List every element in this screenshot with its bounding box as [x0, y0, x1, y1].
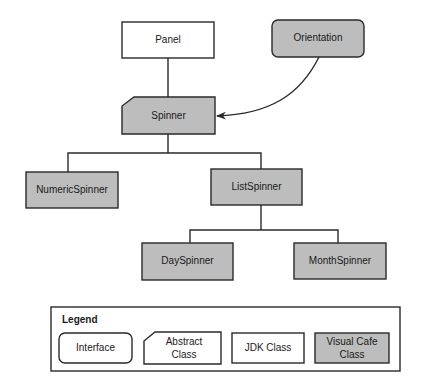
legend-label-line1: Abstract [166, 336, 203, 347]
edges [68, 57, 338, 243]
legend-label: Interface [76, 342, 115, 353]
node-label: Spinner [151, 110, 186, 121]
edge-listspinner-dayspinner [190, 230, 261, 243]
node-listspinner: ListSpinner [211, 169, 302, 205]
legend-label-line2: Class [339, 349, 364, 360]
edge-orientation-spinner-arrow [217, 57, 319, 116]
legend: Legend Interface Abstract Class JDK Clas… [51, 307, 400, 371]
node-label: Panel [155, 34, 181, 45]
legend-item-jdk-class: JDK Class [232, 333, 304, 363]
node-orientation: Orientation [272, 20, 364, 57]
node-dayspinner: DaySpinner [142, 243, 233, 280]
legend-title: Legend [62, 314, 98, 325]
node-label: DaySpinner [161, 255, 214, 266]
node-numericspinner: NumericSpinner [26, 172, 118, 208]
legend-label-line1: Visual Cafe [327, 336, 378, 347]
node-label: ListSpinner [231, 181, 282, 192]
edge-spinner-numericspinner [68, 153, 168, 172]
node-spinner: Spinner [122, 97, 215, 134]
node-label: NumericSpinner [36, 184, 108, 195]
legend-label-line2: Class [171, 349, 196, 360]
node-label: Orientation [294, 32, 343, 43]
legend-item-interface: Interface [59, 333, 132, 363]
class-hierarchy-diagram: Panel Orientation Spinner NumericSpinner… [0, 0, 424, 388]
legend-item-visual-cafe-class: Visual Cafe Class [315, 333, 389, 363]
legend-item-abstract-class: Abstract Class [144, 332, 221, 364]
edge-listspinner-monthspinner [261, 230, 338, 243]
node-panel: Panel [122, 22, 214, 58]
legend-label: JDK Class [245, 342, 292, 353]
edge-spinner-listspinner [168, 153, 261, 169]
node-label: MonthSpinner [309, 255, 372, 266]
node-monthspinner: MonthSpinner [294, 243, 386, 279]
